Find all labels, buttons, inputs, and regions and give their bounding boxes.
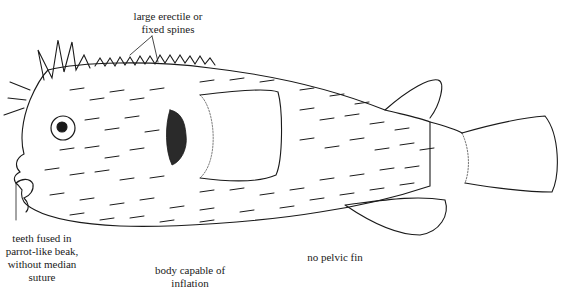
label-body-line: body capable of	[150, 264, 230, 277]
large-spines	[38, 40, 90, 80]
spines-leader	[130, 36, 158, 62]
label-spines-line: fixed spines	[118, 23, 218, 36]
anal-fin	[345, 198, 446, 235]
gill-opening	[166, 110, 186, 165]
pectoral-fin	[200, 90, 282, 181]
label-pelvic-line: no pelvic fin	[280, 251, 390, 264]
label-teeth-line: parrot-like beak,	[0, 245, 84, 258]
pectoral-fin-base	[200, 95, 213, 178]
label-body-line: inflation	[150, 277, 230, 290]
label-teeth-line: teeth fused in	[0, 232, 84, 245]
peduncle-dotted	[462, 133, 468, 183]
tail-fin	[462, 116, 557, 192]
eye-pupil	[57, 122, 67, 132]
label-pelvic: no pelvic fin	[280, 251, 390, 264]
label-spines: large erectile or fixed spines	[118, 10, 218, 36]
label-body: body capable of inflation	[150, 264, 230, 290]
label-teeth-line: without median	[0, 258, 84, 271]
label-teeth: teeth fused in parrot-like beak, without…	[0, 232, 84, 284]
label-spines-line: large erectile or	[118, 10, 218, 23]
peduncle-line	[430, 122, 462, 133]
label-teeth-line: suture	[0, 271, 84, 284]
